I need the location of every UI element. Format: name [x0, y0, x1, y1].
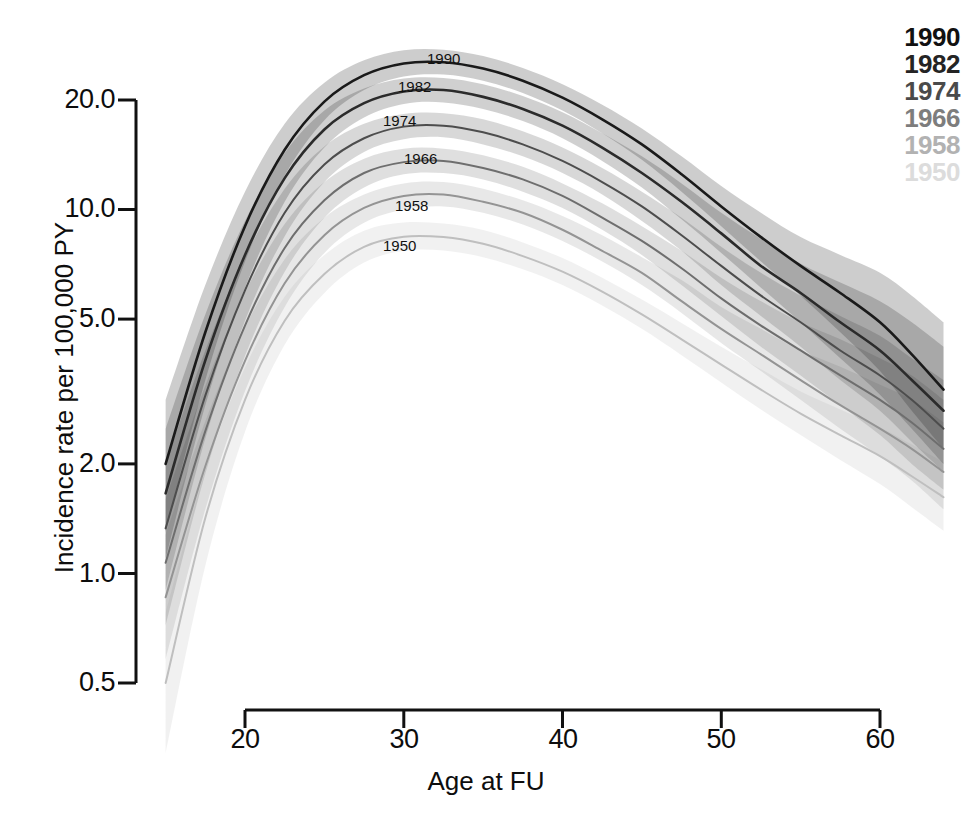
legend-item-1982[interactable]: 1982: [904, 51, 960, 78]
legend-item-1950[interactable]: 1950: [904, 159, 960, 186]
xtick-label-40: 40: [523, 724, 603, 755]
curve-label-1966: 1966: [404, 150, 437, 167]
plot-canvas: [0, 0, 972, 831]
curve-label-1958: 1958: [395, 197, 428, 214]
curve-label-1982: 1982: [398, 78, 431, 95]
x-axis-title: Age at FU: [0, 766, 972, 797]
legend-item-1974[interactable]: 1974: [904, 78, 960, 105]
xtick-label-60: 60: [840, 724, 920, 755]
xtick-label-30: 30: [364, 724, 444, 755]
incidence-rate-chart: 20.0 10.0 5.0 2.0 1.0 0.5 20 30 40 50 60…: [0, 0, 972, 831]
curve-label-1950: 1950: [383, 237, 416, 254]
curve-label-1974: 1974: [383, 112, 416, 129]
y-axis-ticks: [118, 100, 136, 683]
y-axis-title: Incidence rate per 100,000 PY: [49, 58, 80, 738]
curve-label-1990: 1990: [427, 50, 460, 67]
legend: 1990 1982 1974 1966 1958 1950: [904, 24, 960, 186]
xtick-label-50: 50: [681, 724, 761, 755]
xtick-label-20: 20: [205, 724, 285, 755]
legend-item-1966[interactable]: 1966: [904, 105, 960, 132]
legend-item-1990[interactable]: 1990: [904, 24, 960, 51]
legend-item-1958[interactable]: 1958: [904, 132, 960, 159]
